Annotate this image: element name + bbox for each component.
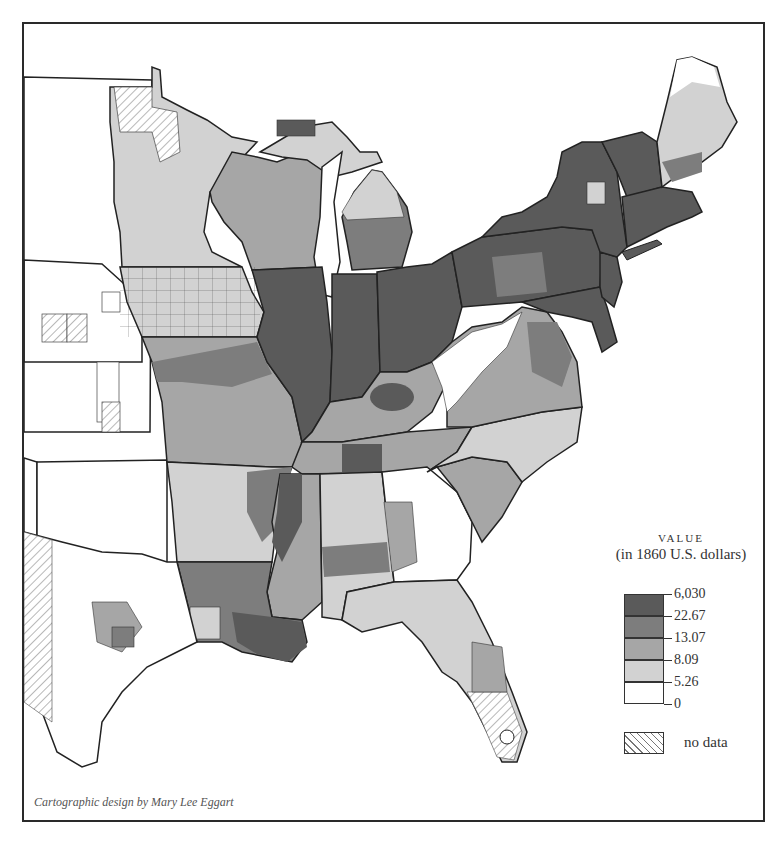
nodata-label: no data <box>684 734 728 751</box>
map-frame: VALUE (in 1860 U.S. dollars) 6,030 22.67… <box>22 22 765 822</box>
legend-break-label: 6,030 <box>674 587 706 601</box>
cartographer-credit: Cartographic design by Mary Lee Eggart <box>34 795 234 810</box>
legend-tick <box>664 660 672 661</box>
alabama-black-belt-dark <box>322 542 390 577</box>
nodata-hatch-swatch <box>624 732 664 754</box>
legend-tick <box>664 682 672 683</box>
state-southern-new-england <box>622 187 702 247</box>
legend-break-label: 8.09 <box>674 653 699 667</box>
nh-light-counties <box>587 182 605 204</box>
legend-break-label: 0 <box>674 697 681 711</box>
michigan-upper-dark-counties <box>277 120 315 136</box>
lake-okeechobee <box>500 730 514 744</box>
legend-tick <box>664 616 672 617</box>
legend-subtitle: (in 1860 U.S. dollars) <box>586 546 765 563</box>
florida-central-shaded <box>472 642 507 692</box>
legend-swatch-class4 <box>624 616 664 638</box>
legend-tick <box>664 638 672 639</box>
texas-west-nodata <box>24 532 52 722</box>
map-legend: VALUE (in 1860 U.S. dollars) 6,030 22.67… <box>586 532 765 563</box>
legend-tick <box>664 594 672 595</box>
iowa-grid <box>120 267 260 337</box>
legend-tick <box>664 704 672 705</box>
kentucky-bluegrass-dark <box>370 383 414 411</box>
michigan-north-light <box>342 170 404 220</box>
legend-swatch-class5 <box>624 594 664 616</box>
pennsylvania-central-mid <box>492 252 547 297</box>
legend-break-label: 5.26 <box>674 675 699 689</box>
state-wisconsin <box>210 152 332 270</box>
state-new-jersey <box>600 252 622 307</box>
texas-dark-counties <box>112 627 134 647</box>
tennessee-middle-dark <box>342 444 382 472</box>
legend-swatch-class2 <box>624 660 664 682</box>
legend-title: VALUE <box>586 532 765 544</box>
legend-swatch-class1 <box>624 682 664 704</box>
legend-swatch-class3 <box>624 638 664 660</box>
legend-break-label: 22.67 <box>674 609 706 623</box>
legend-break-label: 13.07 <box>674 631 706 645</box>
